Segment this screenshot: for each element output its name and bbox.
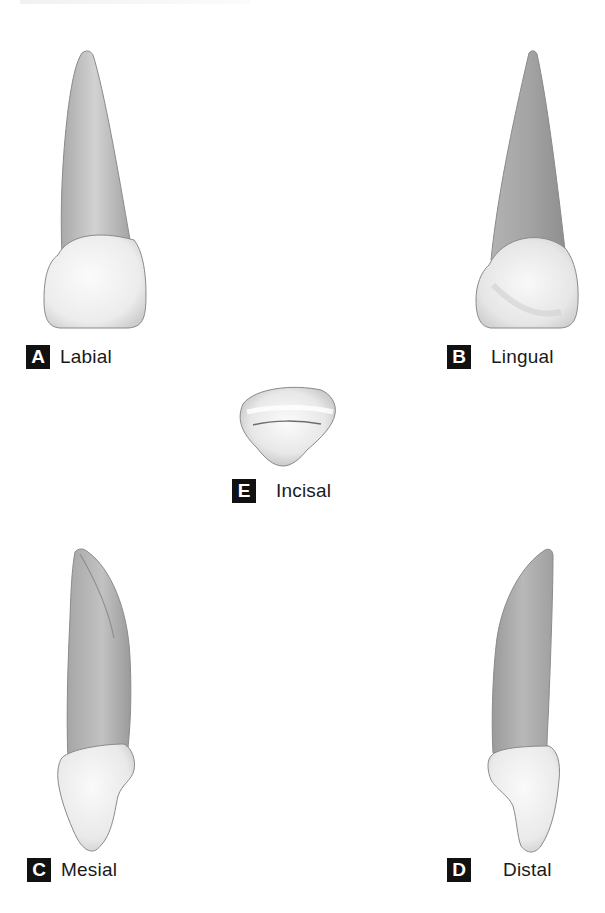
view-label: Labial <box>60 346 112 368</box>
tooth-incisal-illustration <box>233 382 339 470</box>
view-letter-badge: B <box>447 345 471 369</box>
tooth-labial-illustration <box>38 50 153 335</box>
view-label: Lingual <box>491 346 554 368</box>
view-label: Distal <box>503 859 552 881</box>
view-incisal: E Incisal <box>200 370 400 510</box>
caption-incisal: E Incisal <box>232 479 331 503</box>
caption-lingual: B Lingual <box>447 345 554 369</box>
view-label: Mesial <box>61 859 117 881</box>
caption-distal: D Distal <box>447 858 552 882</box>
view-letter-badge: C <box>27 858 51 882</box>
view-mesial: C Mesial <box>0 540 200 913</box>
view-labial: A Labial <box>0 0 200 380</box>
caption-labial: A Labial <box>26 345 112 369</box>
view-letter-badge: E <box>232 479 256 503</box>
tooth-lingual-illustration <box>473 50 583 335</box>
view-letter-badge: A <box>26 345 50 369</box>
view-distal: D Distal <box>400 540 605 913</box>
tooth-mesial-illustration <box>50 548 140 858</box>
view-lingual: B Lingual <box>400 0 605 380</box>
view-label: Incisal <box>276 480 331 502</box>
tooth-distal-illustration <box>483 548 573 858</box>
caption-mesial: C Mesial <box>27 858 117 882</box>
view-letter-badge: D <box>447 858 471 882</box>
